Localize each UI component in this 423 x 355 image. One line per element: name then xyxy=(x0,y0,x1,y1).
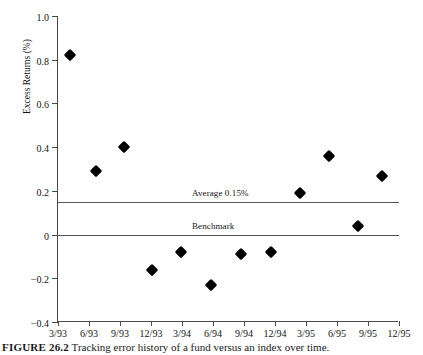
x-axis-tick-label: 6/95 xyxy=(328,328,346,339)
y-axis-tick-label: 0.8 xyxy=(37,55,50,66)
x-axis-tick-label: 9/95 xyxy=(359,328,377,339)
data-point-marker xyxy=(175,246,188,259)
data-point-marker xyxy=(265,246,278,259)
data-point-marker xyxy=(235,248,248,261)
x-axis-tick-label: 9/93 xyxy=(111,328,129,339)
figure-number: FIGURE 26.2 xyxy=(2,341,69,353)
y-axis-tick: 0.2 xyxy=(52,191,58,192)
reference-line xyxy=(58,235,399,236)
x-axis-tick xyxy=(337,321,338,326)
x-axis-tick xyxy=(399,321,400,326)
plot-area: 1.00.80.60.40.20−0.2−0.43/936/939/9312/9… xyxy=(57,16,398,322)
x-axis-tick xyxy=(151,321,152,326)
data-point-marker xyxy=(205,278,218,291)
x-axis-tick xyxy=(306,321,307,326)
data-point-marker xyxy=(90,165,103,178)
caption-text: Tracking error history of a fund versus … xyxy=(72,341,330,353)
y-axis-tick: 0.8 xyxy=(52,60,58,61)
y-axis-tick: 1.0 xyxy=(52,16,58,17)
y-axis-tick-label: 0 xyxy=(44,230,49,241)
x-axis-tick xyxy=(213,321,214,326)
x-axis-tick-label: 6/94 xyxy=(204,328,222,339)
data-point-marker xyxy=(323,150,336,163)
benchmark-line-label: Benchmark xyxy=(192,221,234,231)
data-point-marker xyxy=(64,49,77,62)
reference-line xyxy=(58,202,399,203)
x-axis-tick xyxy=(120,321,121,326)
x-axis-tick xyxy=(58,321,59,326)
figure-container: Excess Returns (%) 1.00.80.60.40.20−0.2−… xyxy=(0,0,423,355)
data-point-marker xyxy=(146,263,159,276)
average-line-label: Average 0.15% xyxy=(192,188,249,198)
y-axis-tick: −0.2 xyxy=(52,278,58,279)
y-axis-tick-label: 0.4 xyxy=(37,143,50,154)
data-point-marker xyxy=(352,219,365,232)
y-axis-tick-label: 0.2 xyxy=(37,186,50,197)
x-axis-tick-label: 3/94 xyxy=(173,328,191,339)
y-axis-tick-label: 1.0 xyxy=(37,12,50,23)
x-axis-tick xyxy=(368,321,369,326)
x-axis-tick-label: 3/93 xyxy=(49,328,67,339)
x-axis-tick xyxy=(89,321,90,326)
y-axis-tick-label: −0.4 xyxy=(31,318,49,329)
figure-caption: FIGURE 26.2 Tracking error history of a … xyxy=(2,341,422,355)
x-axis-tick xyxy=(275,321,276,326)
y-axis-title: Excess Returns (%) xyxy=(22,100,32,114)
x-axis-tick xyxy=(182,321,183,326)
x-axis-tick-label: 9/94 xyxy=(235,328,253,339)
data-point-marker xyxy=(376,169,389,182)
data-point-marker xyxy=(118,141,131,154)
x-axis-tick-label: 3/95 xyxy=(297,328,315,339)
data-point-marker xyxy=(294,187,307,200)
x-axis-tick-label: 6/93 xyxy=(80,328,98,339)
y-axis-tick-label: 0.6 xyxy=(37,99,50,110)
x-axis-tick-label: 12/93 xyxy=(140,328,163,339)
y-axis-tick: 0.6 xyxy=(52,103,58,104)
y-axis-tick-label: −0.2 xyxy=(31,274,49,285)
x-axis-tick-label: 12/94 xyxy=(264,328,287,339)
x-axis-tick xyxy=(244,321,245,326)
y-axis-tick: 0.4 xyxy=(52,147,58,148)
x-axis-tick-label: 12/95 xyxy=(388,328,411,339)
